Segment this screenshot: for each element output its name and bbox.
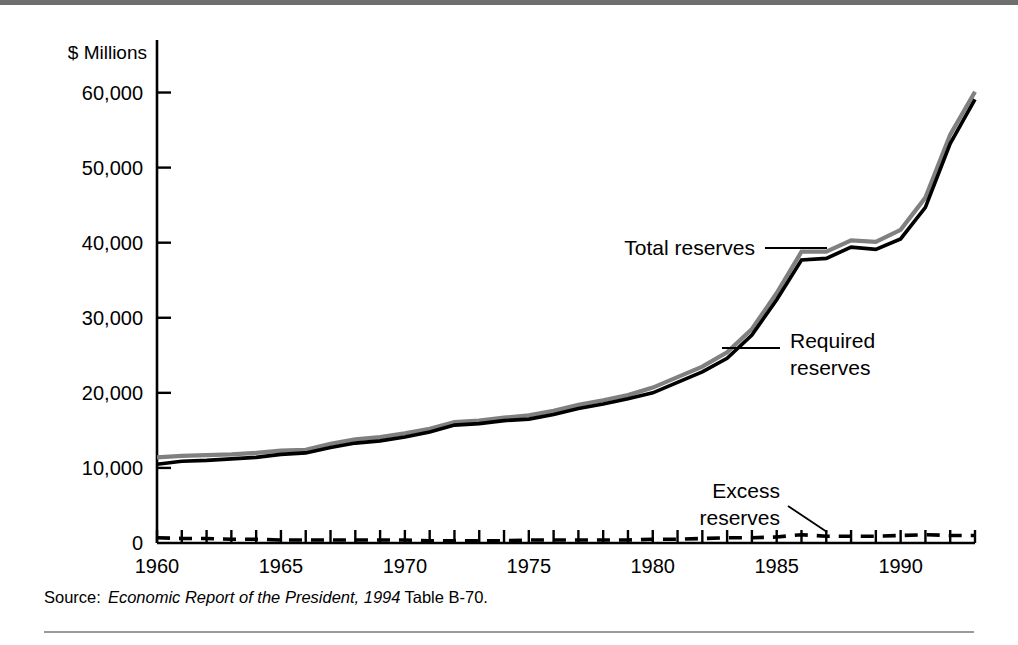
leader-line-excess-reserves — [788, 506, 827, 532]
series-line-excess-reserves — [157, 535, 975, 541]
series-line-total-reserves — [157, 92, 975, 458]
x-tick-label: 1985 — [754, 555, 799, 577]
y-tick-label: 50,000 — [82, 157, 143, 179]
reserves-line-chart: $ Millions 010,00020,00030,00040,00050,0… — [0, 0, 1018, 645]
source-title: Economic Report of the President, 1994 — [101, 588, 401, 606]
bottom-divider-rule — [44, 631, 974, 633]
annotation-required-reserves: Requiredreserves — [790, 329, 875, 379]
x-tick-label: 1980 — [631, 555, 676, 577]
x-tick-label: 1970 — [383, 555, 428, 577]
y-tick-label: 30,000 — [82, 307, 143, 329]
figure-root: $ Millions 010,00020,00030,00040,00050,0… — [0, 0, 1018, 645]
y-tick-label: 10,000 — [82, 457, 143, 479]
y-tick-label: 20,000 — [82, 382, 143, 404]
x-tick-label: 1975 — [507, 555, 552, 577]
annotation-excess-reserves: Excessreserves — [699, 479, 780, 529]
y-axis-unit-label: $ Millions — [68, 42, 147, 63]
source-label: Source: — [44, 588, 101, 606]
x-tick-label: 1965 — [259, 555, 304, 577]
y-tick-label: 0 — [132, 532, 143, 554]
annotation-total-reserves: Total reserves — [624, 236, 755, 259]
source-table-ref: Table B-70. — [400, 588, 487, 606]
y-tick-label: 40,000 — [82, 232, 143, 254]
y-tick-label: 60,000 — [82, 82, 143, 104]
x-tick-label: 1960 — [135, 555, 180, 577]
x-tick-label: 1990 — [878, 555, 923, 577]
source-note: Source:Economic Report of the President,… — [44, 588, 488, 607]
